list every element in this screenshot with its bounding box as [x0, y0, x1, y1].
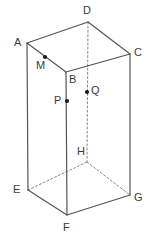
edge-EH	[28, 162, 87, 190]
vertex-label-g: G	[134, 192, 143, 203]
vertex-label-f: F	[63, 222, 70, 233]
vertex-label-e: E	[13, 184, 20, 195]
edge-FG	[67, 195, 130, 215]
hidden-edge-group	[28, 22, 130, 195]
vertex-label-h: H	[77, 146, 85, 157]
prism-drawing	[0, 0, 159, 249]
point-label-p: P	[54, 95, 61, 106]
vertex-label-d: D	[83, 5, 91, 16]
vertex-label-b: B	[69, 74, 76, 85]
edge-HG	[87, 162, 130, 195]
vertex-label-a: A	[14, 37, 21, 48]
point-label-m: M	[36, 60, 45, 71]
point-marker-p	[65, 99, 69, 103]
point-marker-q	[85, 90, 89, 94]
vertex-label-c: C	[134, 47, 142, 58]
edge-AE	[27, 43, 28, 190]
edge-EF	[28, 190, 67, 215]
edge-CB	[66, 54, 130, 72]
edge-DC	[88, 22, 130, 54]
point-label-q: Q	[91, 85, 100, 96]
geometry-figure: ABCDEFGHMPQ	[0, 0, 159, 249]
solid-edge-group	[27, 22, 130, 215]
edge-BF	[66, 72, 67, 215]
edge-AD	[27, 22, 88, 43]
